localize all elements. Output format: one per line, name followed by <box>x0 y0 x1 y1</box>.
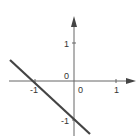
x-axis-arrow-icon <box>126 78 136 84</box>
y-axis-arrow-icon <box>71 16 77 27</box>
coordinate-plane: 1 -1 -1 1 0 0 <box>0 0 139 140</box>
x-tick-label-1: 1 <box>114 85 119 95</box>
y-tick-label-1: 1 <box>64 39 69 49</box>
plotted-line <box>10 60 90 134</box>
x-tick-label-neg1: -1 <box>30 85 38 95</box>
origin-label-lower: 0 <box>78 85 83 95</box>
origin-label-upper: 0 <box>64 71 69 81</box>
y-tick-label-neg1: -1 <box>61 116 69 126</box>
